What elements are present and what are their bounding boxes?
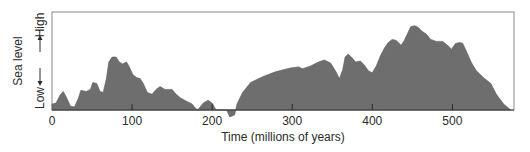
- x-tick-label: 400: [362, 114, 382, 128]
- y-axis-title: Sea level: [11, 36, 25, 85]
- y-low-label: Low: [33, 87, 47, 109]
- x-axis-title: Time (millions of years): [221, 130, 345, 144]
- x-tick-label: 100: [122, 114, 142, 128]
- sea-level-chart: 0100200300400500 Time (millions of years…: [0, 0, 530, 152]
- x-tick-label: 500: [442, 114, 462, 128]
- x-tick-label: 200: [202, 114, 222, 128]
- x-tick-label: 0: [49, 114, 56, 128]
- arrow-down-icon: [38, 68, 43, 86]
- x-tick-label: 300: [282, 114, 302, 128]
- y-high-label: High: [33, 13, 47, 38]
